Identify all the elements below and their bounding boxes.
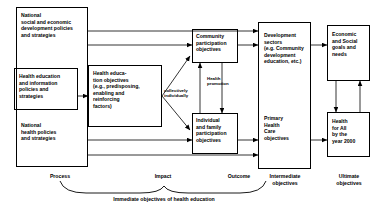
label-process: Process: [33, 173, 87, 180]
label-collectively-individually: collectively individually: [164, 88, 198, 99]
label-ultimate-objectives: Ultimate objectives: [322, 173, 376, 186]
label-community-participation: Community participation objectives: [196, 33, 238, 53]
label-development-sectors: Development sectors (e.g. Community deve…: [264, 32, 312, 65]
label-intermediate-objectives: Intermediate objectives: [257, 173, 313, 186]
brace-immediate-objectives: [60, 181, 266, 193]
health-education-objectives-diagram: National social and economic development…: [0, 0, 377, 209]
caption-immediate-objectives: Immediate objectives of health education: [66, 196, 262, 203]
label-impact: Impact: [136, 173, 190, 180]
label-health-promotion: Health promotion: [207, 76, 237, 87]
label-national-health-policies: National health policies and strategies: [21, 122, 87, 142]
label-health-education-objectives: Health educa- tion objectives (e.g., pre…: [93, 70, 163, 110]
label-national-socioeconomic: National social and economic development…: [21, 12, 87, 38]
edge-heobjectives-to-individual: [162, 96, 190, 130]
label-economic-social-goals: Economic and Social goals and needs: [332, 31, 372, 57]
label-health-for-all: Health for All by the year 2000: [332, 118, 372, 144]
label-individual-family-participation: Individual and family participation obje…: [196, 117, 238, 143]
label-primary-health-care: Primary Health Care objectives: [264, 115, 312, 141]
label-health-education-policies: Health education and information policie…: [19, 73, 79, 99]
